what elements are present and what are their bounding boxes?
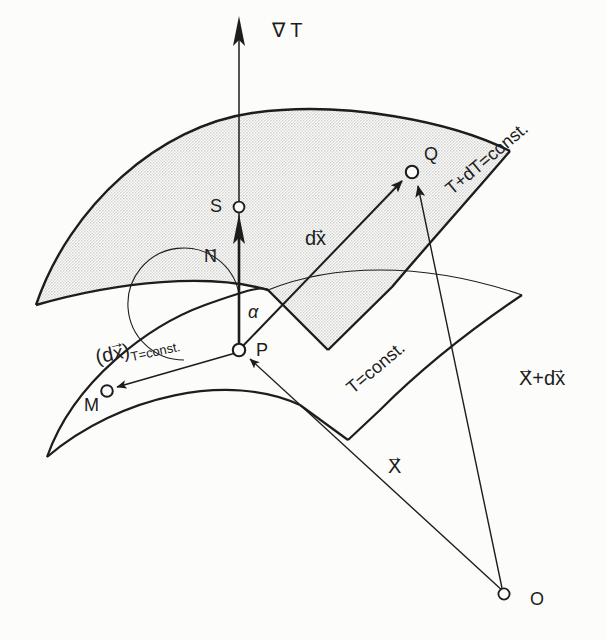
normal-vector-n-label: → N [204, 247, 217, 265]
point-marker-o [498, 588, 509, 599]
point-marker-s [234, 202, 245, 213]
position-vector-x-plus-dx [418, 186, 502, 588]
point-p-label: P [256, 341, 268, 359]
point-s-label: S [210, 197, 222, 215]
lower-surface-outline-valley [300, 405, 348, 440]
x-plus-dx-plus-sign: + [532, 367, 544, 389]
vector-arrow-icon: → [310, 221, 326, 237]
dx-vector-label: → dx [305, 228, 326, 248]
dx-const-subscript: T=const. [129, 339, 181, 364]
dx-tangential-label: (d→x)T=const. [96, 347, 181, 371]
grad-t-label: ∇ T [272, 20, 302, 40]
vector-arrow-icon: → [107, 334, 126, 353]
vector-arrow-icon: → [518, 361, 534, 377]
point-o-label: O [530, 590, 544, 608]
point-marker-q [406, 166, 418, 178]
alpha-label: α [248, 303, 258, 321]
iso-lower-label: T=const. [349, 381, 419, 399]
vector-arrow-icon: → [550, 361, 566, 377]
position-vector-x-plus-dx-line [418, 186, 502, 588]
figure-canvas: ∇ T S P Q M O α → N → dx (d→x)T=const. T… [0, 0, 606, 640]
iso-upper-label: T+dT=const. [448, 182, 549, 200]
position-vector-x-plus-dx-label: → X + → dx [519, 368, 565, 388]
point-marker-m [101, 385, 113, 397]
point-q-label: Q [424, 145, 438, 163]
position-vector-x-label: → X [388, 456, 401, 476]
vector-arrow-icon: → [203, 241, 217, 255]
diagram-svg [0, 0, 606, 640]
vector-arrow-icon: → [387, 449, 403, 465]
point-marker-p [233, 344, 245, 356]
point-m-label: M [84, 396, 99, 414]
